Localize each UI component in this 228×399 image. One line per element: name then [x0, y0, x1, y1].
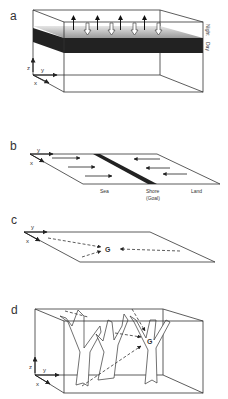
path-arrow	[82, 251, 101, 257]
x-axis-label: x	[36, 381, 39, 387]
goal-marker: G	[147, 338, 153, 345]
box-edge	[35, 309, 64, 321]
goal-label: (Goal)	[146, 195, 160, 201]
panel-b: b y x Sea Shore (Goal) Land	[10, 139, 220, 201]
y-axis-label: y	[31, 224, 34, 230]
path-arrow	[48, 238, 101, 247]
night-label: Night	[205, 24, 211, 36]
land-label: Land	[191, 188, 202, 194]
x-axis-label: x	[30, 160, 33, 166]
y-axis-label: y	[37, 147, 40, 153]
panel-a: a Night Day	[10, 9, 211, 92]
y-axis-label: y	[41, 67, 44, 73]
box-edge	[163, 309, 203, 321]
box-edge	[33, 10, 64, 22]
panel-b-label: b	[10, 139, 17, 153]
z-axis-label: z	[27, 65, 30, 71]
x-axis-label: x	[34, 80, 37, 86]
panel-c: c y x G	[11, 213, 215, 262]
path-arrow	[120, 249, 180, 251]
box-edge	[163, 375, 203, 393]
plane	[24, 232, 215, 262]
x-axis-label: x	[26, 238, 29, 244]
shore-label: Shore	[146, 188, 160, 194]
figure: a Night Day	[0, 0, 228, 399]
goal-marker: G	[105, 246, 111, 253]
box-edge	[160, 75, 203, 92]
panel-d-label: d	[11, 303, 18, 317]
panel-a-label: a	[10, 9, 17, 23]
panel-d: d G z y x	[11, 303, 203, 393]
panel-c-label: c	[11, 213, 17, 227]
day-label: Day	[205, 42, 211, 51]
tree	[130, 316, 170, 384]
tree	[96, 314, 128, 380]
shore-band	[93, 154, 157, 184]
night-layer	[33, 26, 203, 38]
sea-label: Sea	[100, 188, 109, 194]
y-axis-label: y	[43, 367, 46, 373]
z-axis-label: z	[29, 364, 32, 370]
